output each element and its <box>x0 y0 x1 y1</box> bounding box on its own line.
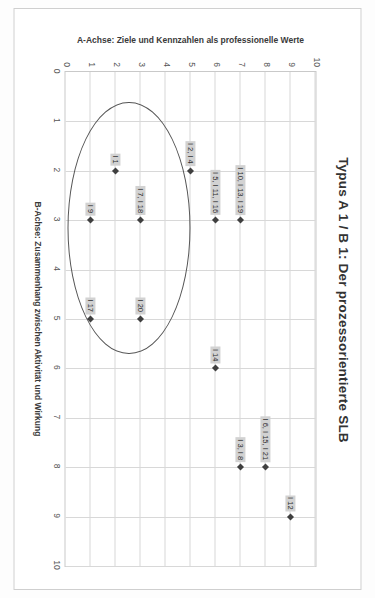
data-point-label: I 6, I 15, I 21 <box>260 416 270 462</box>
x-tick-label: 9 <box>51 513 61 518</box>
x-tick-label: 0 <box>51 69 61 74</box>
data-point-label: I 1 <box>110 153 120 165</box>
x-tick-label: 7 <box>51 414 61 419</box>
y-tick-label: 0 <box>61 53 71 67</box>
y-tick-label: 10 <box>311 53 321 67</box>
y-gridline <box>289 72 290 566</box>
x-tick-label: 5 <box>51 316 61 321</box>
x-tick-label: 1 <box>51 118 61 123</box>
data-point-label: I 12 <box>285 495 295 512</box>
y-tick-label: 2 <box>111 53 121 67</box>
y-gridline <box>264 72 265 566</box>
data-point-label: I 3, I 8 <box>235 437 245 462</box>
x-tick-label: 3 <box>51 217 61 222</box>
chart-figure: Typus A 1 / B 1: Der prozessorientierte … <box>13 8 361 590</box>
x-axis-title: B-Achse: Zusammenhang zwischen Aktivität… <box>32 71 42 567</box>
y-tick-label: 5 <box>186 53 196 67</box>
y-tick-label: 6 <box>211 53 221 67</box>
y-tick-label: 3 <box>136 53 146 67</box>
x-tick-label: 6 <box>51 365 61 370</box>
rotated-figure-container: Typus A 1 / B 1: Der prozessorientierte … <box>0 0 375 598</box>
y-tick-label: 4 <box>161 53 171 67</box>
y-tick-label: 8 <box>261 53 271 67</box>
y-tick-label: 1 <box>86 53 96 67</box>
y-tick-label: 7 <box>236 53 246 67</box>
x-tick-label: 8 <box>51 464 61 469</box>
y-gridline <box>314 72 315 566</box>
data-point-label: I 2, I 4 <box>185 141 195 166</box>
y-gridline <box>239 72 240 566</box>
x-gridline <box>65 566 315 567</box>
chart-title: Typus A 1 / B 1: Der prozessorientierte … <box>335 9 350 591</box>
y-gridline <box>114 72 115 566</box>
data-point-label: I 10, I 13, I 19 <box>235 165 245 215</box>
x-tick-label: 2 <box>51 167 61 172</box>
data-point-label: I 14 <box>210 347 220 364</box>
plot-area: I 12I 6, I 15, I 21I 3, I 8I 14I 10, I 1… <box>64 71 316 567</box>
data-point-label: I 7, I 18 <box>135 186 145 215</box>
y-gridline <box>164 72 165 566</box>
data-point-label: I 5, I 11, I 16 <box>210 170 220 215</box>
y-gridline <box>214 72 215 566</box>
data-point-label: I 20 <box>135 297 145 314</box>
data-point-label: I 9 <box>85 203 95 215</box>
x-tick-label: 4 <box>51 266 61 271</box>
screenshot-canvas: Typus A 1 / B 1: Der prozessorientierte … <box>0 0 375 598</box>
data-point-label: I 17 <box>85 297 95 314</box>
x-tick-label: 10 <box>51 560 61 569</box>
y-axis-title: A-Achse: Ziele und Kennzahlen als profes… <box>76 35 303 45</box>
y-tick-label: 9 <box>286 53 296 67</box>
